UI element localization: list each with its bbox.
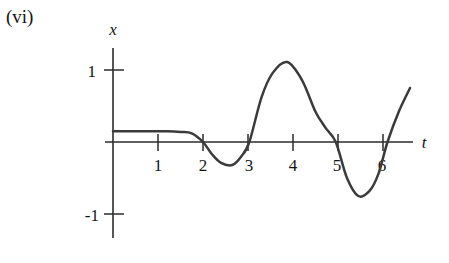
y-tick-label-neg1: -1 (85, 206, 99, 225)
x-tick-label-4: 4 (289, 156, 298, 175)
x-axis-label: t (422, 133, 428, 152)
plot-curve (113, 62, 410, 197)
x-tick-label-2: 2 (199, 156, 208, 175)
x-tick-label-3: 3 (245, 156, 254, 175)
y-tick-label-pos1: 1 (88, 62, 97, 81)
plot-figure: 1 2 3 4 5 6 1 -1 x t (0, 0, 449, 263)
y-axis-label: x (108, 20, 117, 39)
x-tick-label-1: 1 (154, 156, 163, 175)
